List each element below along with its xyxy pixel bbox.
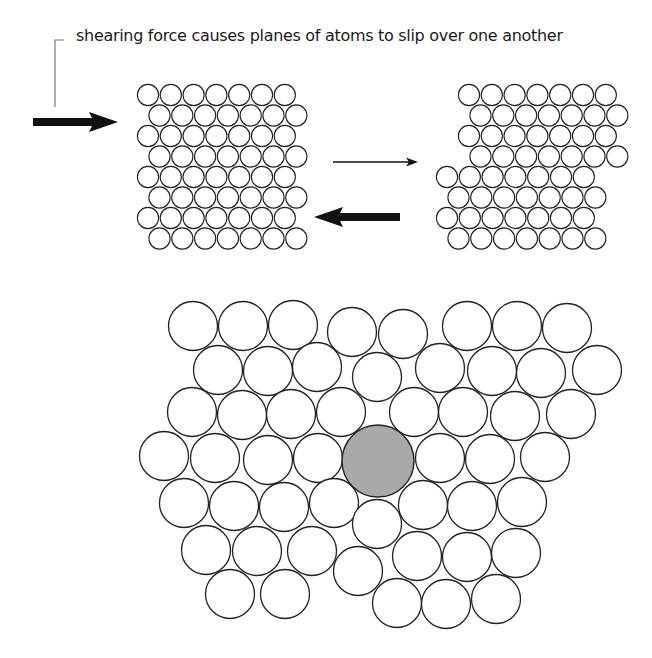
atom [137, 207, 158, 228]
atom [240, 187, 261, 208]
atom [244, 436, 293, 485]
atom [217, 146, 238, 167]
atom [573, 207, 594, 228]
atom [169, 302, 218, 351]
atom [390, 388, 439, 437]
arrows [33, 112, 418, 227]
atom [274, 125, 295, 146]
atom [607, 146, 628, 167]
atom [539, 187, 560, 208]
atom [353, 500, 402, 549]
atom [458, 125, 479, 146]
atom [528, 207, 549, 228]
atom [585, 228, 606, 249]
atom [516, 228, 537, 249]
atom [263, 105, 284, 126]
atom [585, 187, 606, 208]
atom [206, 84, 227, 105]
atom [267, 390, 316, 439]
atom [183, 166, 204, 187]
atom [436, 207, 457, 228]
atom [229, 207, 250, 228]
atom [471, 228, 492, 249]
atom [263, 187, 284, 208]
atom [521, 433, 570, 482]
atom [493, 105, 514, 126]
atom [595, 84, 616, 105]
atom [493, 302, 542, 351]
atom [561, 146, 582, 167]
atom [251, 125, 272, 146]
atom [263, 228, 284, 249]
atom [528, 166, 549, 187]
atom [573, 166, 594, 187]
atom [217, 228, 238, 249]
atom [538, 146, 559, 167]
atom [251, 166, 272, 187]
atom [286, 187, 307, 208]
atom [160, 166, 181, 187]
atom [260, 483, 309, 532]
atom [229, 125, 250, 146]
atom [572, 125, 593, 146]
atom [240, 228, 261, 249]
atom [317, 388, 366, 437]
atom [286, 228, 307, 249]
atom [561, 105, 582, 126]
atom [261, 570, 310, 619]
atom [443, 302, 492, 351]
atom [539, 228, 560, 249]
atom [399, 481, 448, 530]
atom [274, 166, 295, 187]
atom [504, 125, 525, 146]
atom [527, 125, 548, 146]
atom [498, 478, 547, 527]
atom [172, 146, 193, 167]
atom [293, 343, 342, 392]
atom [160, 84, 181, 105]
atom [219, 302, 268, 351]
atom [233, 527, 282, 576]
atom [191, 434, 240, 483]
atom [206, 207, 227, 228]
atom [436, 166, 457, 187]
atom [448, 228, 469, 249]
interstitial-atom [342, 425, 414, 497]
atom-lattice-before-shear [137, 84, 307, 249]
atom [373, 579, 422, 628]
atom [516, 146, 537, 167]
atom [459, 166, 480, 187]
atom [229, 166, 250, 187]
atom [183, 125, 204, 146]
atom [160, 125, 181, 146]
atom [206, 125, 227, 146]
atom [172, 228, 193, 249]
atom [269, 301, 318, 350]
atom [195, 105, 216, 126]
atom [573, 346, 622, 395]
atom [562, 228, 583, 249]
atom [251, 207, 272, 228]
atom [194, 346, 243, 395]
atom [240, 105, 261, 126]
atom [195, 146, 216, 167]
atom [274, 207, 295, 228]
atom [210, 482, 259, 531]
atom [472, 575, 521, 624]
atom [505, 207, 526, 228]
atom [481, 125, 502, 146]
atom [137, 125, 158, 146]
atom [466, 435, 515, 484]
atom [516, 105, 537, 126]
atom [217, 187, 238, 208]
atom [240, 146, 261, 167]
atom [504, 84, 525, 105]
atom [244, 347, 293, 396]
atom [443, 533, 492, 582]
atom [448, 187, 469, 208]
atom [595, 125, 616, 146]
atom [251, 84, 272, 105]
caption-leader-line [55, 40, 64, 107]
atom [505, 166, 526, 187]
atom [206, 570, 255, 619]
